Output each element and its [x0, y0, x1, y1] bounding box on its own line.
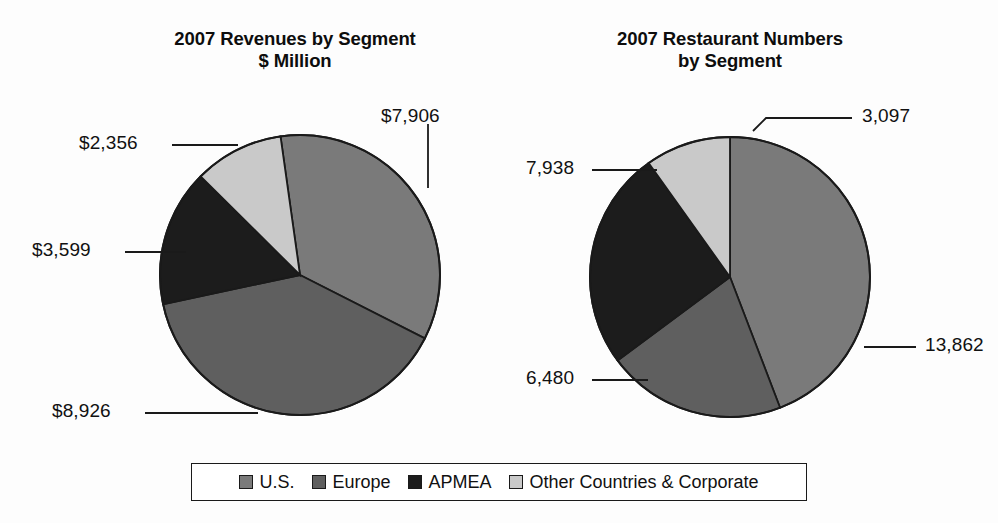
legend-item-apmea[interactable]: APMEA	[408, 472, 491, 493]
legend-item-us[interactable]: U.S.	[239, 472, 294, 493]
legend-swatch-other-icon	[509, 475, 523, 489]
callout-left-apmea: $3,599	[32, 239, 91, 261]
callout-right-europe: 6,480	[526, 367, 574, 389]
legend-label-apmea: APMEA	[428, 472, 491, 493]
legend-label-other: Other Countries & Corporate	[529, 472, 758, 493]
legend-swatch-us-icon	[239, 475, 253, 489]
callout-leader-lines	[0, 0, 998, 523]
callout-left-europe: $8,926	[52, 400, 111, 422]
legend-label-europe: Europe	[332, 472, 390, 493]
leader-right-other	[753, 118, 852, 131]
callout-left-other: $2,356	[79, 132, 138, 154]
callout-right-apmea: 7,938	[526, 157, 574, 179]
callout-right-us: 13,862	[925, 334, 984, 356]
callout-right-other: 3,097	[862, 105, 910, 127]
chart-legend: U.S. Europe APMEA Other Countries & Corp…	[191, 463, 807, 501]
legend-item-europe[interactable]: Europe	[312, 472, 390, 493]
legend-swatch-europe-icon	[312, 475, 326, 489]
legend-item-other[interactable]: Other Countries & Corporate	[509, 472, 758, 493]
legend-label-us: U.S.	[259, 472, 294, 493]
figure-canvas: 2007 Revenues by Segment $ Million 2007 …	[0, 0, 998, 523]
callout-left-us: $7,906	[381, 105, 440, 127]
legend-swatch-apmea-icon	[408, 475, 422, 489]
